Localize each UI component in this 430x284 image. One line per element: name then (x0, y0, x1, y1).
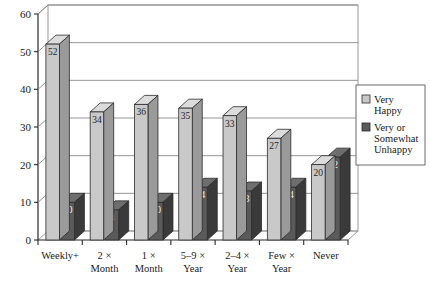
bars-group: 222014271333143510368341052 (46, 35, 350, 240)
bar-front-face (223, 116, 237, 240)
x-axis-tick-label: Year (228, 263, 248, 274)
legend-entry-label: Unhappy (374, 144, 413, 155)
bar-value-label: 34 (92, 115, 102, 125)
bar: 34 (90, 103, 114, 240)
bar-side-face (59, 35, 69, 240)
y-axis-tick-label: 0 (26, 234, 32, 246)
bar: 27 (267, 129, 291, 240)
x-axis-tick-label: Year (183, 263, 203, 274)
bar-side-face (340, 148, 350, 240)
legend-entry-label: Happy (374, 105, 403, 116)
x-axis-tick-label: 1 × (142, 250, 156, 261)
legend: VeryHappyVery orSomewhatUnhappy (356, 85, 425, 165)
bar-side-face (148, 95, 158, 240)
x-axis-tick-label: Weekly+ (41, 250, 79, 261)
x-axis-tick-label: Year (272, 263, 292, 274)
x-axis-tick-label: Few × (268, 250, 295, 261)
bar-value-label: 36 (136, 107, 146, 117)
bar-side-face (104, 103, 114, 240)
y-axis-tick-label: 20 (20, 159, 32, 171)
bar-side-face (237, 107, 247, 240)
bar: 52 (46, 35, 70, 240)
gridline-connector (38, 5, 48, 14)
bar-front-face (134, 104, 148, 240)
bar-side-face (192, 99, 202, 240)
bar-side-face (325, 156, 335, 240)
x-axis-tick-label: Never (313, 250, 339, 261)
bar-side-face (207, 178, 217, 240)
x-axis-labels: Weekly+2 ×Month1 ×Month5–9 ×Year2–4 ×Yea… (38, 240, 348, 274)
bar: 36 (134, 95, 158, 240)
x-axis-tick-label: Month (90, 263, 119, 274)
legend-entry-label: Very (374, 94, 395, 105)
plot-area: 0102030405060222014271333143510368341052… (20, 5, 358, 274)
x-axis-tick-label: 5–9 × (181, 250, 205, 261)
bar-front-face (46, 44, 60, 240)
y-axis-tick-label: 60 (20, 8, 32, 20)
y-axis-tick-label: 40 (20, 83, 32, 95)
chart-canvas: 0102030405060222014271333143510368341052… (0, 0, 430, 284)
x-axis-tick-label: 2 × (98, 250, 112, 261)
x-axis-tick-label: 2–4 × (225, 250, 249, 261)
bar-chart: 0102030405060222014271333143510368341052… (0, 0, 430, 284)
legend-swatch (362, 95, 370, 103)
bar-value-label: 27 (269, 141, 279, 151)
bar-front-face (267, 138, 281, 240)
bar-value-label: 52 (48, 47, 58, 57)
bar: 20 (312, 156, 336, 240)
bar-side-face (252, 182, 262, 240)
bar-value-label: 20 (314, 168, 324, 178)
bar-value-label: 35 (181, 111, 191, 121)
y-axis-tick-label: 10 (20, 196, 32, 208)
bar-value-label: 33 (225, 119, 235, 129)
bar-side-face (296, 178, 306, 240)
x-axis-tick-label: Month (135, 263, 164, 274)
bar-side-face (281, 129, 291, 240)
bar-front-face (179, 108, 193, 240)
bar: 35 (179, 99, 203, 240)
legend-entry-label: Very or (374, 122, 406, 133)
floor-edge-right (348, 231, 358, 240)
legend-entry-label: Somewhat (374, 133, 418, 144)
y-axis-tick-label: 30 (20, 121, 32, 133)
y-axis-tick-label: 50 (20, 46, 32, 58)
bar-front-face (90, 112, 104, 240)
legend-swatch (362, 123, 370, 131)
bar: 33 (223, 107, 247, 240)
